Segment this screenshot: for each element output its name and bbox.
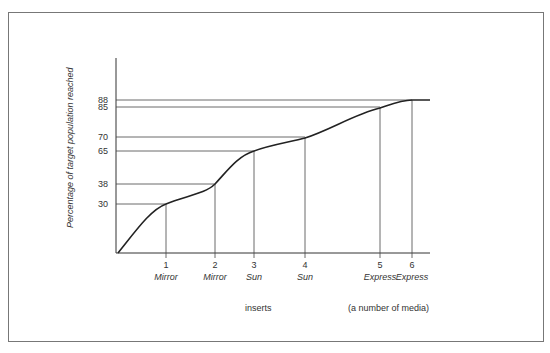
guide-lines: [116, 100, 412, 258]
x-tick-number: 5: [377, 260, 382, 270]
x-tick-number: 2: [212, 260, 217, 270]
y-tick: 70: [98, 132, 108, 142]
reach-curve: [118, 100, 430, 253]
x-tick-number: 1: [163, 260, 168, 270]
x-tick-number: 4: [302, 260, 307, 270]
y-axis-label: Percentage of target population reached: [65, 66, 75, 228]
x-axis-label: inserts: [245, 303, 272, 313]
reach-chart: 303865708588 1Mirror2Mirror3Sun4Sun5Expr…: [0, 0, 550, 353]
x-tick-number: 3: [251, 260, 256, 270]
chart-frame: [9, 13, 544, 342]
x-tick-number: 6: [409, 260, 414, 270]
y-tick-labels: 303865708588: [98, 95, 108, 209]
x-tick-media: Sun: [246, 272, 262, 282]
x-tick-media: Express: [396, 272, 429, 282]
x-tick-labels: 1Mirror2Mirror3Sun4Sun5Express6Express: [154, 260, 429, 282]
x-axis-sublabel: (a number of media): [348, 303, 429, 313]
x-tick-media: Mirror: [154, 272, 178, 282]
x-tick-media: Mirror: [203, 272, 227, 282]
y-tick: 88: [98, 95, 108, 105]
x-tick-media: Express: [364, 272, 397, 282]
y-tick: 38: [98, 179, 108, 189]
y-tick: 65: [98, 146, 108, 156]
x-tick-media: Sun: [297, 272, 313, 282]
y-tick: 30: [98, 199, 108, 209]
